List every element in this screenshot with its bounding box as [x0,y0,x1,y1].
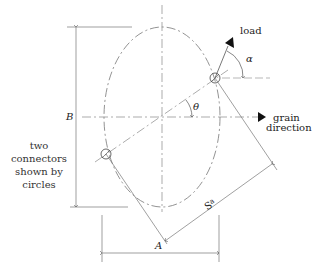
load-arrow-icon [225,37,234,48]
load-label: load [240,25,262,36]
load-line [215,46,228,78]
note-line: circles [8,178,70,191]
grain-direction-arrow-icon [258,112,266,122]
a-label: A [154,240,162,251]
grain-label-line2: direction [266,122,312,133]
connectors-note: two connectors shown by circles [8,139,70,191]
sa-dimension-line [165,164,272,241]
alpha-label: α [246,53,253,64]
note-line: two [8,139,70,152]
b-label: B [65,111,73,122]
alpha-arc [227,51,243,78]
connector-geometry-diagram: load α θ grain direction B A Sa [0,0,314,269]
connector-centerline [95,70,228,162]
theta-arc [186,100,192,117]
note-line: shown by [8,165,70,178]
sa-extension-2 [106,154,167,244]
theta-label: θ [193,101,199,112]
note-line: connectors [8,152,70,165]
